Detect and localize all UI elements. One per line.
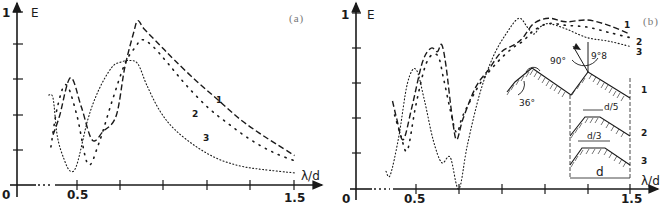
inset-d: d: [596, 165, 604, 179]
inset-d3: d/3: [587, 131, 601, 141]
profile-label-3: 3: [641, 156, 647, 166]
inset-angle-36: 36°: [519, 98, 535, 108]
incident-arrow-icon: [573, 43, 581, 50]
panel-b: 1 E 0 0.5 1.5 λ/d (b) 1 2 3: [341, 3, 660, 206]
y-tick-label-1: 1: [341, 8, 349, 22]
origin-label: 0: [342, 192, 350, 206]
profile-label-2: 2: [641, 128, 647, 138]
profile-label-1: 1: [641, 85, 647, 95]
inset-angle-98: 9°8: [591, 51, 607, 61]
figure: 1 E 0 0.5 1.5 λ/d (a) 1 2 3: [0, 0, 663, 207]
curve-1-dashed: [393, 18, 631, 140]
y-axis-label: E: [31, 6, 39, 20]
angle-arc-36: [518, 81, 524, 95]
curve-label-3: 3: [203, 133, 209, 143]
y-axis-label: E: [367, 8, 375, 22]
curve-1-dashed: [53, 21, 294, 156]
curve-label-1: 1: [624, 20, 630, 30]
panel-a: 1 E 0 0.5 1.5 λ/d (a) 1 2 3: [2, 3, 322, 205]
curve-label-2: 2: [636, 37, 642, 47]
y-ticks: [13, 12, 23, 150]
curve-label-1: 1: [216, 95, 222, 105]
origin-label: 0: [2, 188, 10, 202]
profile-1-outline: [507, 68, 630, 98]
y-tick-label-1: 1: [2, 6, 10, 20]
panel-label-a: (a): [289, 12, 304, 25]
curve-3-fine-dotted: [386, 18, 630, 189]
x-tick-label-05: 0.5: [404, 192, 425, 206]
x-tick-label-15: 1.5: [621, 192, 642, 206]
x-axis-label: λ/d: [641, 174, 660, 188]
curve-label-2: 2: [192, 109, 198, 119]
x-tick-label-15: 1.5: [284, 191, 305, 205]
x-axis-label: λ/d: [301, 169, 320, 183]
x-tick-label-05: 0.5: [67, 188, 88, 202]
curve-label-3: 3: [636, 47, 642, 57]
panel-label-b: (b): [643, 15, 659, 28]
curve-3-fine-dotted: [49, 60, 295, 173]
inset-angle-90: 90°: [550, 56, 566, 66]
curve-2-coarse-dotted: [51, 40, 295, 165]
inset-d5: d/5: [604, 102, 618, 112]
